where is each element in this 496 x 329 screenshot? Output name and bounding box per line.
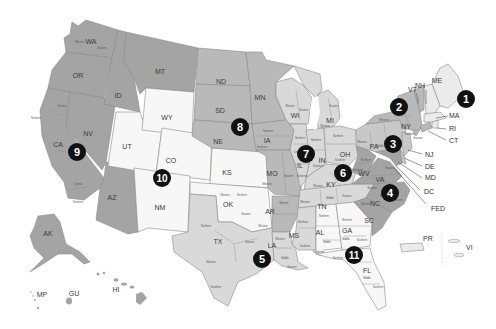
- svg-text:Eastern: Eastern: [285, 174, 294, 178]
- circuit-badge-11[interactable]: 11: [345, 246, 363, 264]
- label-fl: FL: [363, 267, 371, 274]
- label-pr: PR: [423, 235, 433, 242]
- label-mn: MN: [255, 94, 266, 101]
- state-az[interactable]: [96, 162, 138, 234]
- label-fed: FED: [431, 205, 445, 212]
- circuit-badge-8[interactable]: 8: [231, 118, 249, 136]
- label-sc: SC: [364, 217, 374, 224]
- svg-text:Middle: Middle: [342, 237, 350, 241]
- label-mi: MI: [326, 117, 334, 124]
- svg-text:Western: Western: [313, 184, 323, 188]
- label-wa: WA: [85, 38, 96, 45]
- svg-text:Western: Western: [285, 104, 295, 108]
- label-ar: AR: [265, 208, 275, 215]
- circuit-badge-6[interactable]: 6: [334, 164, 352, 182]
- label-tn: TN: [317, 203, 326, 210]
- svg-text:Northern: Northern: [263, 129, 274, 133]
- label-ut: UT: [122, 143, 132, 150]
- svg-text:Western: Western: [275, 237, 285, 241]
- svg-text:Western: Western: [379, 118, 389, 122]
- svg-text:Western: Western: [75, 40, 85, 44]
- label-az: AZ: [108, 194, 118, 201]
- svg-text:Southern: Southern: [335, 158, 346, 162]
- circuit-badge-4[interactable]: 4: [381, 184, 399, 202]
- svg-text:Northern: Northern: [31, 116, 42, 120]
- circuit-badge-1[interactable]: 1: [457, 90, 475, 108]
- circuit-badge-2[interactable]: 2: [390, 98, 408, 116]
- label-nh: NH: [415, 82, 425, 89]
- territory-pr[interactable]: [400, 243, 424, 252]
- label-md: MD: [425, 174, 436, 181]
- svg-text:6: 6: [340, 167, 346, 179]
- label-gu: GU: [69, 290, 80, 297]
- svg-text:Southern: Southern: [300, 244, 311, 248]
- circuit-badge-9[interactable]: 9: [68, 143, 86, 161]
- svg-text:Southern: Southern: [297, 174, 308, 178]
- label-ma: MA: [449, 112, 460, 119]
- svg-text:Southern: Southern: [73, 200, 84, 204]
- svg-text:Northern: Northern: [342, 218, 353, 222]
- label-va: VA: [376, 176, 385, 183]
- svg-text:Northern: Northern: [298, 220, 309, 224]
- svg-text:Western: Western: [206, 260, 216, 264]
- label-ny: NY: [401, 123, 411, 130]
- svg-text:Northern: Northern: [361, 158, 372, 162]
- label-me: ME: [432, 77, 443, 84]
- svg-text:Southern: Southern: [357, 238, 368, 242]
- territory-vi[interactable]: [448, 239, 464, 256]
- label-ia: IA: [264, 137, 271, 144]
- svg-text:Western: Western: [357, 140, 367, 144]
- svg-text:Middle: Middle: [326, 196, 334, 200]
- label-mo: MO: [266, 170, 278, 177]
- svg-text:Western: Western: [220, 193, 230, 197]
- circuit-badge-10[interactable]: 10: [153, 169, 171, 187]
- circuit-badge-7[interactable]: 7: [297, 145, 315, 163]
- svg-text:Middle: Middle: [363, 276, 371, 280]
- svg-text:Western: Western: [300, 200, 310, 204]
- svg-text:Eastern: Eastern: [300, 108, 309, 112]
- svg-text:Northern: Northern: [237, 193, 248, 197]
- svg-text:Southern: Southern: [211, 285, 222, 289]
- svg-text:4: 4: [387, 187, 394, 199]
- state-hi[interactable]: [97, 272, 148, 305]
- svg-text:Western: Western: [320, 124, 330, 128]
- state-sd[interactable]: [194, 84, 252, 124]
- label-ri: RI: [449, 125, 456, 132]
- label-ak: AK: [43, 230, 53, 237]
- label-ms: MS: [289, 232, 300, 239]
- label-wy: WY: [161, 114, 173, 121]
- svg-text:Western: Western: [367, 186, 377, 190]
- svg-text:Eastern: Eastern: [288, 265, 297, 269]
- svg-text:Northern: Northern: [333, 134, 344, 138]
- label-nm: NM: [155, 204, 166, 211]
- label-wi: WI: [291, 112, 300, 119]
- svg-text:9: 9: [74, 146, 80, 158]
- svg-text:Eastern: Eastern: [414, 136, 423, 140]
- label-nv: NV: [83, 130, 93, 137]
- svg-text:Northern: Northern: [311, 138, 322, 142]
- svg-text:Eastern: Eastern: [386, 166, 395, 170]
- label-ga: GA: [342, 227, 352, 234]
- us-judicial-circuits-map: WA OR CA NV ID MT AZ AK HI GU MP UT WY C…: [0, 0, 496, 329]
- label-ca: CA: [53, 141, 63, 148]
- svg-text:Western: Western: [262, 182, 272, 186]
- label-id: ID: [115, 92, 122, 99]
- svg-text:Southern: Southern: [405, 132, 416, 136]
- label-in: IN: [319, 157, 326, 164]
- circuit-badge-3[interactable]: 3: [384, 135, 402, 153]
- circuit-badge-5[interactable]: 5: [253, 250, 271, 268]
- label-ct: CT: [449, 137, 459, 144]
- svg-text:Western: Western: [258, 224, 268, 228]
- label-dc: DC: [424, 188, 434, 195]
- svg-text:11: 11: [349, 250, 360, 261]
- svg-text:2: 2: [396, 101, 402, 113]
- label-hi: HI: [113, 286, 120, 293]
- label-co: CO: [166, 157, 177, 164]
- state-ak[interactable]: [30, 214, 90, 272]
- label-tx: TX: [214, 238, 223, 245]
- svg-text:Southern: Southern: [257, 145, 268, 149]
- state-ks[interactable]: [210, 148, 270, 188]
- svg-text:Eastern: Eastern: [246, 240, 255, 244]
- territory-gu[interactable]: [66, 298, 72, 305]
- label-ne: NE: [213, 138, 223, 145]
